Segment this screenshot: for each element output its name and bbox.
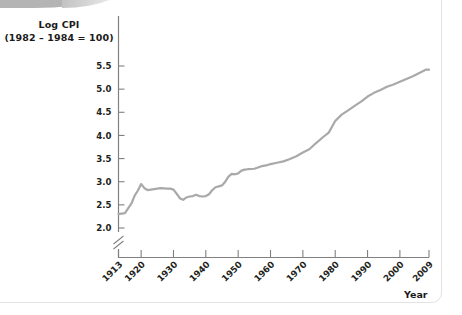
x-tick-label: 1930 bbox=[155, 259, 179, 283]
y-tick-label: 3.5 bbox=[96, 154, 111, 164]
x-tick-label: 1990 bbox=[349, 259, 373, 283]
x-tick-label: 1940 bbox=[187, 259, 211, 283]
y-tick-label: 2.0 bbox=[96, 223, 111, 233]
y-tick-label: 5.0 bbox=[96, 84, 111, 94]
line-chart: 2.02.53.03.54.04.55.05.51913192019301940… bbox=[0, 0, 462, 315]
x-tick-label: 1960 bbox=[252, 259, 276, 283]
y-tick-label: 2.5 bbox=[96, 200, 111, 210]
x-axis-title: Year bbox=[404, 289, 428, 300]
x-tick-label: 2000 bbox=[381, 259, 405, 283]
x-tick-label: 2009 bbox=[411, 259, 435, 283]
screenshot-root: Log CPI (1982 – 1984 = 100) 2.02.53.03.5… bbox=[0, 0, 462, 315]
cpi-data-line bbox=[119, 70, 430, 214]
y-tick-label: 3.0 bbox=[96, 177, 111, 187]
x-tick-label: 1980 bbox=[317, 259, 341, 283]
y-tick-label: 4.0 bbox=[96, 131, 111, 141]
x-tick-label: 1950 bbox=[220, 259, 244, 283]
x-tick-label: 1970 bbox=[284, 259, 308, 283]
y-tick-label: 5.5 bbox=[96, 61, 111, 71]
x-tick-label: 1920 bbox=[123, 259, 147, 283]
y-tick-label: 4.5 bbox=[96, 107, 111, 117]
x-tick-label: 1913 bbox=[100, 259, 124, 283]
